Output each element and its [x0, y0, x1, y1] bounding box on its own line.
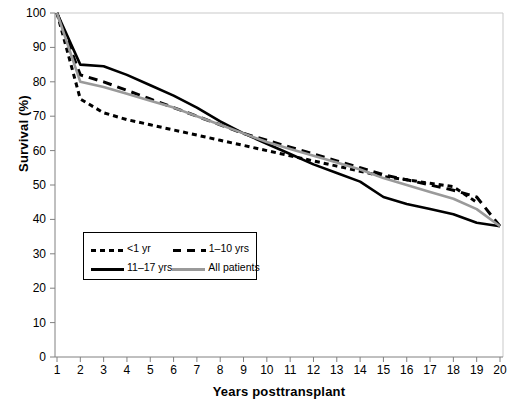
- y-tick-marks: [50, 13, 55, 357]
- plot-area: [0, 0, 519, 409]
- y-tick-label-0: 0: [6, 351, 46, 363]
- legend-label-lt1yr: <1 yr: [127, 243, 151, 254]
- legend-item-11to17yrs: 11–17 yrs: [91, 262, 172, 273]
- x-tick-label-14: 14: [348, 364, 372, 376]
- legend-item-all-patients: All patients: [172, 262, 259, 273]
- x-tick-label-4: 4: [115, 364, 139, 376]
- x-tick-label-9: 9: [232, 364, 256, 376]
- x-tick-label-18: 18: [441, 364, 465, 376]
- x-tick-label-7: 7: [185, 364, 209, 376]
- y-tick-label-10: 10: [6, 317, 46, 329]
- x-tick-label-5: 5: [138, 364, 162, 376]
- x-tick-label-10: 10: [255, 364, 279, 376]
- x-axis-title: Years posttransplant: [55, 384, 503, 399]
- x-tick-label-3: 3: [92, 364, 116, 376]
- y-tick-label-30: 30: [6, 248, 46, 260]
- x-tick-label-16: 16: [395, 364, 419, 376]
- x-tick-label-17: 17: [418, 364, 442, 376]
- legend-label-1to10yrs: 1–10 yrs: [209, 243, 249, 254]
- dotted-line-key: [91, 249, 124, 252]
- x-tick-label-8: 8: [208, 364, 232, 376]
- x-tick-label-19: 19: [465, 364, 489, 376]
- y-tick-label-20: 20: [6, 282, 46, 294]
- series-line--1-yr: [57, 13, 477, 202]
- x-tick-marks: [57, 357, 500, 362]
- dashed-line-key: [173, 249, 206, 252]
- legend-item-1to10yrs: 1–10 yrs: [173, 243, 249, 254]
- x-tick-label-1: 1: [45, 364, 69, 376]
- x-tick-label-15: 15: [371, 364, 395, 376]
- legend-label-11to17yrs: 11–17 yrs: [127, 262, 172, 273]
- y-tick-label-40: 40: [6, 213, 46, 225]
- x-tick-label-20: 20: [488, 364, 512, 376]
- series-layer: [57, 13, 500, 226]
- x-tick-label-12: 12: [301, 364, 325, 376]
- x-axis-tick-labels: 1234567891011121314151617181920: [0, 364, 519, 384]
- y-axis-title: Survival (%): [16, 59, 31, 209]
- chart-legend: <1 yr 1–10 yrs 11–17 yrs All patients: [83, 232, 257, 280]
- survival-chart: 1009080706050403020100 12345678910111213…: [0, 0, 519, 409]
- x-tick-label-13: 13: [325, 364, 349, 376]
- x-tick-label-6: 6: [162, 364, 186, 376]
- y-tick-label-90: 90: [6, 41, 46, 53]
- legend-item-lt1yr: <1 yr: [91, 243, 173, 254]
- x-tick-label-2: 2: [68, 364, 92, 376]
- solid-black-line-key: [91, 268, 124, 271]
- legend-row-1: <1 yr 1–10 yrs: [91, 239, 249, 258]
- x-tick-label-11: 11: [278, 364, 302, 376]
- legend-label-all-patients: All patients: [208, 262, 259, 273]
- legend-row-2: 11–17 yrs All patients: [91, 258, 249, 277]
- solid-gray-line-key: [172, 268, 205, 271]
- y-tick-label-100: 100: [6, 7, 46, 19]
